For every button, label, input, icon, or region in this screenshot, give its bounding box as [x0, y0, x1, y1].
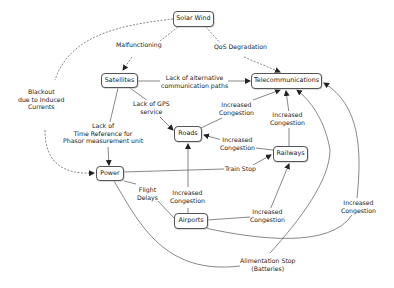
label-malfunctioning: Malfunctioning: [116, 41, 162, 49]
connector-layer: [0, 0, 394, 288]
label-flight-delays: Flight Delays: [137, 186, 158, 201]
label-lack-time-reference: Lack of Time Reference for Phasor measur…: [63, 122, 143, 145]
node-roads[interactable]: Roads: [174, 126, 202, 142]
node-airports[interactable]: Airports: [174, 213, 208, 229]
label-roads-telecom-congestion: Increased Congestion: [219, 101, 254, 116]
label-blackout: Blackout due to Induced Currents: [18, 88, 65, 111]
node-telecommunications[interactable]: Telecommunications: [251, 73, 322, 89]
label-lack-alternative: Lack of alternative communication paths: [161, 74, 228, 89]
label-qos-degradation: QoS Degradation: [214, 43, 267, 51]
label-airports-railways-congestion: Increased Congestion: [250, 208, 285, 223]
node-railways[interactable]: Railways: [273, 146, 308, 162]
node-power[interactable]: Power: [96, 166, 124, 181]
label-railways-telecom-congestion: Increased Congestion: [270, 111, 305, 126]
label-airports-telecom-congestion: Increased Congestion: [341, 199, 376, 214]
label-railways-roads-congestion: Increased Congestion: [220, 136, 255, 151]
label-train-stop: Train Stop: [225, 165, 256, 173]
node-solar-wind[interactable]: Solar Wind: [173, 11, 214, 27]
label-airports-roads-congestion: Increased Congestion: [170, 189, 205, 204]
node-satellites[interactable]: Satellites: [101, 73, 138, 88]
label-alimentation-stop: Alimentation Stop (Batteries): [240, 257, 296, 272]
label-lack-gps: Lack of GPS service: [133, 100, 170, 115]
